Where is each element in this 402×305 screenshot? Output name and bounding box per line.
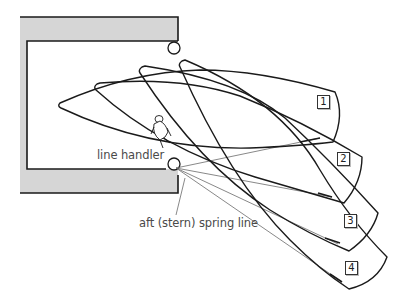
position-2-badge: 2 (337, 152, 350, 166)
dock-shape (20, 17, 178, 193)
line-handler-label: line handler (97, 148, 164, 162)
position-3-badge: 3 (344, 214, 357, 228)
spring-lines (176, 138, 342, 282)
position-1-badge: 1 (317, 95, 330, 109)
dock (20, 17, 178, 193)
position-4-badge: 4 (345, 261, 358, 275)
spring-line-1 (176, 138, 320, 168)
upper-bollard-icon (168, 42, 180, 54)
spring-line-label: aft (stern) spring line (139, 216, 258, 230)
spring-line-3 (176, 168, 338, 244)
line-handler-figure-icon (151, 116, 171, 149)
spring-line-ends (300, 138, 342, 282)
